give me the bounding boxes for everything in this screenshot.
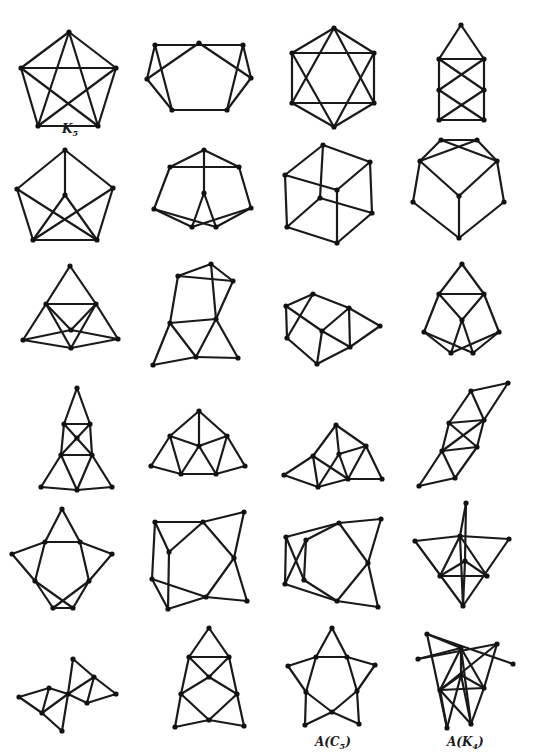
graph-edge: [181, 657, 189, 694]
graph-vertex: [412, 538, 417, 543]
graph-r6-c3: [285, 625, 377, 727]
graph-edge: [170, 319, 216, 323]
graph-vertex: [165, 606, 170, 611]
graph-vertex: [149, 576, 154, 581]
graph-r1-c4: [436, 22, 486, 122]
graph-vertex: [201, 147, 206, 152]
graph-edge: [420, 161, 459, 196]
graph-vertex: [289, 100, 294, 105]
graph-vertex: [284, 335, 289, 340]
graph-edge: [442, 451, 455, 478]
graph-vertex: [109, 484, 114, 489]
graph-vertex: [208, 261, 213, 266]
graph-vertex: [329, 625, 334, 630]
graph-edge: [320, 198, 372, 213]
graph-vertex: [377, 323, 382, 328]
graph-edge: [305, 692, 306, 725]
graph-edge: [151, 466, 181, 474]
graph-vertex: [148, 463, 153, 468]
graph-r5-c4: [412, 500, 511, 608]
graph-edge: [41, 487, 77, 490]
graph-vertex: [109, 551, 114, 556]
graph-edge: [153, 357, 196, 365]
graph-vertex: [436, 56, 441, 61]
graph-edge: [152, 522, 155, 579]
graph-edge: [284, 475, 318, 487]
graph-r2-c1: [14, 147, 115, 242]
graph-vertex: [167, 320, 172, 325]
graph-vertex: [84, 700, 89, 705]
graph-edge: [332, 691, 357, 712]
graph-edge: [216, 281, 233, 319]
graph-vertex: [315, 484, 320, 489]
graph-edge: [337, 601, 378, 607]
graph-vertex: [281, 472, 286, 477]
graph-r2-c3: [282, 142, 374, 245]
graph-edge: [349, 308, 350, 347]
graph-edge: [69, 32, 98, 126]
graph-edge: [313, 294, 349, 308]
graph-vertex: [67, 263, 72, 268]
graph-edge: [77, 455, 92, 490]
graph-edge: [19, 697, 42, 713]
graph-vertex: [446, 420, 451, 425]
graph-vertex: [410, 199, 415, 204]
graph-vertex: [62, 147, 67, 152]
graph-vertex: [310, 291, 315, 296]
graph-r4-c1: [38, 385, 114, 492]
graph-vertex: [439, 448, 444, 453]
graph-r1-c1-k5: [18, 29, 118, 128]
graph-r4-c2: [148, 408, 247, 476]
graph-edge: [19, 688, 49, 697]
graph-vertex: [201, 190, 206, 195]
graph-vertex: [152, 42, 157, 47]
graph-edge: [41, 455, 61, 487]
graph-vertex: [206, 674, 211, 679]
graph-edge: [415, 536, 460, 541]
graph-edge: [313, 456, 318, 487]
graph-edge: [234, 558, 247, 601]
graph-vertex: [89, 452, 94, 457]
graph-vertex: [50, 605, 55, 610]
label-k5: K5: [62, 122, 78, 138]
graph-vertex: [345, 476, 350, 481]
graph-vertex: [421, 329, 426, 334]
graph-edge: [337, 213, 372, 243]
graph-vertex: [70, 605, 75, 610]
graph-edge: [216, 319, 238, 358]
graph-vertex: [302, 722, 307, 727]
graph-vertex: [226, 654, 231, 659]
graph-vertex: [42, 539, 47, 544]
graph-vertex: [379, 476, 384, 481]
graph-edge: [94, 677, 116, 694]
graph-vertex: [113, 691, 118, 696]
graph-edge: [12, 542, 45, 554]
graph-edge: [305, 712, 332, 725]
graph-vertex: [462, 558, 467, 563]
graph-vertex: [437, 687, 442, 692]
graph-vertex: [77, 539, 82, 544]
label-a-c5: A(C5): [315, 735, 351, 751]
graph-edge: [209, 628, 229, 657]
graph-vertex: [167, 433, 172, 438]
graph-vertex: [242, 463, 247, 468]
graph-vertex: [66, 29, 71, 34]
graph-edge: [285, 175, 287, 227]
graph-vertex: [189, 224, 194, 229]
graph-edge: [170, 276, 178, 323]
graph-edge: [53, 581, 89, 608]
graph-edge: [69, 32, 116, 68]
graph-edge: [178, 264, 211, 276]
graph-edge: [439, 25, 461, 59]
graph-vertex: [468, 721, 473, 726]
graph-edge: [465, 561, 487, 576]
graph-vertex: [378, 516, 383, 521]
graph-r3-c2: [150, 261, 240, 367]
graph-vertex: [16, 694, 21, 699]
graph-vertex: [317, 195, 322, 200]
graph-edge: [209, 657, 229, 677]
graph-vertex: [68, 327, 73, 332]
graph-edge: [46, 266, 70, 304]
graph-r1-c2: [144, 40, 253, 112]
graph-edge: [366, 446, 382, 479]
